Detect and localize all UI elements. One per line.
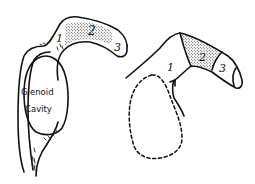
left-scapula-view: 1 2 3 Glenoid Cavity xyxy=(18,17,127,176)
left-label-3: 3 xyxy=(114,41,121,54)
right-label-1: 1 xyxy=(167,61,174,74)
right-glenoid-dashed-outline xyxy=(129,75,182,159)
cavity-label: Cavity xyxy=(25,104,52,114)
right-label-3: 3 xyxy=(219,62,226,75)
left-label-2: 2 xyxy=(87,24,96,38)
anatomical-diagram: 1 2 3 Glenoid Cavity 1 2 3 xyxy=(0,0,255,184)
right-label-2: 2 xyxy=(198,51,206,64)
right-scapula-view: 1 2 3 xyxy=(126,33,242,159)
right-tip-notch xyxy=(233,68,236,86)
left-neck-line xyxy=(36,122,58,176)
glenoid-label: Glenoid xyxy=(21,87,54,97)
left-label-1: 1 xyxy=(56,32,63,45)
